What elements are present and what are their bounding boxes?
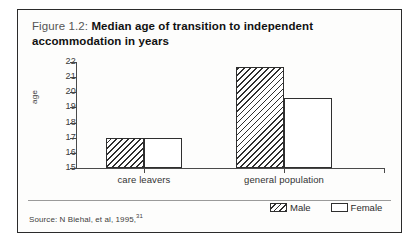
x-axis-tick — [284, 168, 285, 173]
x-axis-label-care-leavers: care leavers — [74, 174, 214, 185]
x-axis-line — [76, 168, 384, 169]
y-axis-tick-label: 18 — [42, 117, 76, 127]
source-divider — [28, 200, 391, 201]
source-reference: 31 — [136, 213, 143, 219]
bar-general-population-female — [284, 98, 332, 168]
y-axis-ticks: 2221201918171615 — [32, 58, 76, 172]
empty-swatch-icon — [331, 203, 348, 212]
chart-plot-area: age 2221201918171615 care leaversgeneral… — [32, 58, 388, 190]
legend-label-female: Female — [351, 202, 383, 213]
source-text: Source: N Biehal, et al, 1995, — [29, 215, 136, 224]
y-axis-tick-label: 20 — [42, 86, 76, 96]
y-axis-tick-label: 22 — [42, 56, 76, 66]
y-axis-tick-label: 21 — [42, 71, 76, 81]
y-axis-tick-label: 17 — [42, 132, 76, 142]
x-axis-end-tick — [384, 168, 385, 173]
chart-legend: Male Female — [270, 202, 382, 213]
bar-care-leavers-male — [106, 138, 144, 168]
bar-general-population-male — [236, 67, 284, 168]
y-axis-tick-label: 19 — [42, 101, 76, 111]
x-axis-label-general-population: general population — [214, 174, 354, 185]
legend-item-female: Female — [331, 202, 383, 213]
bar-care-leavers-female — [144, 138, 182, 168]
legend-item-male: Male — [270, 202, 311, 213]
y-axis-tick-label: 16 — [42, 147, 76, 157]
y-axis-line — [76, 62, 77, 168]
legend-label-male: Male — [290, 202, 311, 213]
source-note: Source: N Biehal, et al, 1995,31 — [29, 213, 143, 224]
figure-frame: Figure 1.2: Median age of transition to … — [17, 9, 402, 233]
figure-caption: Figure 1.2: Median age of transition to … — [32, 19, 384, 48]
figure-label: Figure 1.2: — [32, 20, 88, 32]
hatched-swatch-icon — [270, 203, 287, 212]
x-axis-tick — [144, 168, 145, 173]
y-axis-tick-label: 15 — [42, 162, 76, 172]
